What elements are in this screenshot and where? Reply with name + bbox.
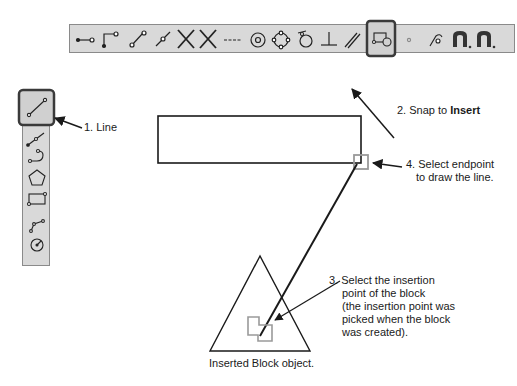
step3-line: was created). xyxy=(329,326,455,339)
step4-label: 4. Select endpoint to draw the line. xyxy=(406,158,494,184)
rectangle-object[interactable] xyxy=(158,116,361,163)
inserted-block-triangle[interactable] xyxy=(210,256,310,351)
step1-label: 1. Line xyxy=(84,121,117,134)
step4-line: 4. Select endpoint xyxy=(406,158,494,171)
step4-line: to draw the line. xyxy=(406,171,494,184)
step3-line: 3. Select the insertion xyxy=(329,274,455,287)
step3-line: point of the block xyxy=(329,287,455,300)
step3-line: picked when the block xyxy=(329,313,455,326)
arrow-step1 xyxy=(55,118,82,128)
step2-bold: Insert xyxy=(450,104,480,116)
arrow-step2 xyxy=(352,89,394,138)
arrow-step4 xyxy=(373,163,402,167)
step3-line: (the insertion point was xyxy=(329,300,455,313)
step2-label: 2. Snap to Insert xyxy=(397,104,480,117)
step2-prefix: 2. Snap to xyxy=(397,104,450,116)
step3-label: 3. Select the insertion point of the blo… xyxy=(329,274,455,339)
block-caption: Inserted Block object. xyxy=(209,357,314,370)
